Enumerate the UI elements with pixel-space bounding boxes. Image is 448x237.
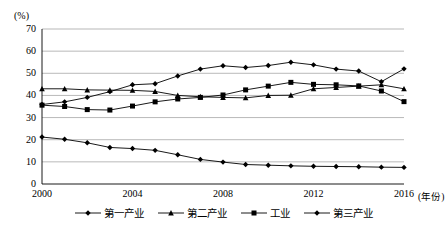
y-tick-50: 50: [12, 67, 36, 78]
legend-marker-diamond-icon: [75, 208, 101, 218]
series-第二产业: [39, 82, 407, 100]
industry-share-line-chart: (%) 010203040506070 20002004200820122016…: [0, 0, 448, 237]
legend-marker-square-icon: [241, 208, 267, 218]
x-tick-2000: 2000: [32, 188, 52, 199]
y-tick-20: 20: [12, 134, 36, 145]
series-第三产业: [39, 60, 406, 108]
x-tick-2004: 2004: [123, 188, 143, 199]
y-tick-30: 30: [12, 112, 36, 123]
legend-item-第二产业[interactable]: 第二产业: [158, 205, 227, 220]
x-tick-2008: 2008: [213, 188, 233, 199]
legend-label: 第一产业: [104, 205, 144, 220]
legend-marker-diamond-icon: [304, 208, 330, 218]
legend-label: 工业: [270, 205, 290, 220]
legend-item-工业[interactable]: 工业: [241, 205, 290, 220]
legend-label: 第二产业: [187, 205, 227, 220]
x-axis-unit-label: (年份): [418, 189, 444, 203]
y-tick-40: 40: [12, 89, 36, 100]
legend-marker-triangle-icon: [158, 208, 184, 218]
x-tick-2016: 2016: [394, 188, 414, 199]
y-tick-10: 10: [12, 156, 36, 167]
y-tick-70: 70: [12, 23, 36, 34]
legend-label: 第三产业: [333, 205, 373, 220]
series-工业: [40, 80, 407, 113]
legend-item-第三产业[interactable]: 第三产业: [304, 205, 373, 220]
y-tick-60: 60: [12, 45, 36, 56]
legend-item-第一产业[interactable]: 第一产业: [75, 205, 144, 220]
x-tick-2012: 2012: [304, 188, 324, 199]
chart-legend: 第一产业第二产业工业第三产业: [0, 205, 448, 220]
plot-area: [0, 0, 448, 237]
